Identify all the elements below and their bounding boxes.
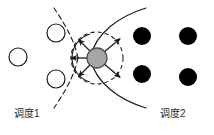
- center-node: [87, 48, 107, 68]
- filled-node: [179, 68, 197, 86]
- left-group-label: 调度1: [14, 105, 40, 120]
- filled-node: [179, 27, 197, 45]
- open-node: [47, 70, 65, 88]
- filled-node: [133, 65, 151, 83]
- open-node-group: [9, 24, 65, 88]
- filled-node-group: [133, 27, 197, 86]
- open-node: [47, 24, 65, 42]
- open-node: [9, 48, 27, 66]
- right-group-label: 调度2: [160, 105, 186, 120]
- filled-node: [133, 27, 151, 45]
- schematic-figure: 调度1 调度2: [0, 0, 214, 135]
